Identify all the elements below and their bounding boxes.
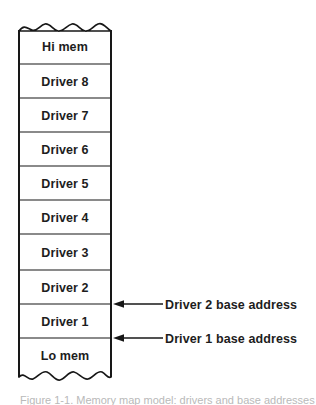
cell-driver-2-label: Driver 2 (41, 281, 88, 295)
figure-caption: Figure 1-1. Memory map model: drivers an… (20, 394, 315, 405)
cell-driver-6-label: Driver 6 (41, 143, 88, 157)
arrow-left-icon (113, 334, 124, 342)
callout-driver-1-base-address-group: Driver 1 base address (113, 332, 297, 346)
callout-driver-2-base-address-label: Driver 2 base address (165, 298, 297, 312)
callout-driver-2-base-address-group: Driver 2 base address (113, 298, 297, 312)
cell-driver-3-label: Driver 3 (41, 246, 88, 260)
cell-driver-8-label: Driver 8 (41, 75, 88, 89)
memory-map-diagram: Hi mem Driver 8 Driver 7 Driver 6 Driver… (0, 0, 316, 405)
cell-lo-mem-label: Lo mem (41, 349, 90, 363)
cell-hi-mem-label: Hi mem (42, 40, 88, 54)
cell-driver-7-label: Driver 7 (41, 109, 88, 123)
arrow-left-icon (113, 300, 124, 308)
cell-driver-5-label: Driver 5 (41, 177, 88, 191)
callout-driver-1-base-address-label: Driver 1 base address (165, 332, 297, 346)
cell-driver-1-label: Driver 1 (41, 315, 88, 329)
cell-driver-4-label: Driver 4 (41, 211, 88, 225)
figure-root: Hi mem Driver 8 Driver 7 Driver 6 Driver… (0, 0, 316, 405)
